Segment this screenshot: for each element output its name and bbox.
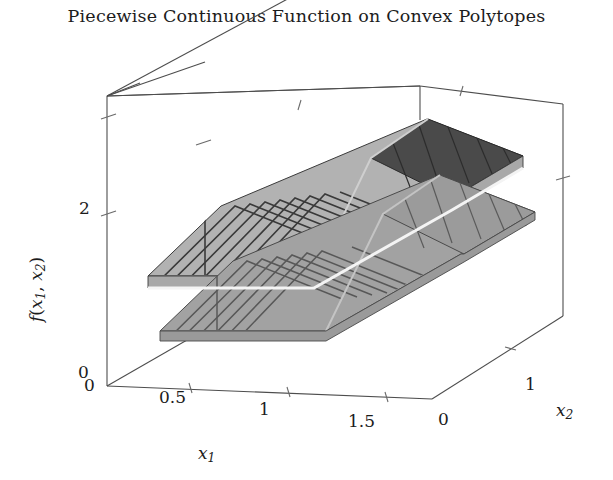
x1-tick-label-15: 1.5 (348, 411, 375, 431)
top-right-rail (420, 86, 563, 104)
x1-tick-1 (287, 387, 290, 397)
z-tick-2 (101, 211, 116, 216)
plot-canvas (0, 0, 613, 480)
surface-plot-figure: Piecewise Continuous Function on Convex … (0, 0, 613, 480)
x1-tick-label-05: 0.5 (159, 387, 186, 407)
top-back-edge-diag (107, 86, 420, 96)
x1-axis-line (107, 386, 432, 399)
x2-tick-label-0: 0 (438, 409, 449, 429)
x1-tick-label-1: 1 (259, 399, 270, 419)
x1-tick-05 (189, 383, 192, 393)
x1-tick-label-0: 0 (84, 375, 95, 395)
upper-left-rail (107, 0, 295, 96)
z-tick-top (101, 114, 116, 119)
upper-rail-tick-a (196, 140, 211, 145)
upper-rail-tick-b (298, 100, 301, 110)
z-axis-label: f(x1, x2) (26, 257, 48, 322)
floor-back-right (107, 83, 140, 96)
top-left-rail (107, 62, 205, 96)
z-tick-label-2: 2 (79, 198, 90, 218)
x2-axis-label: x2 (556, 400, 573, 422)
x2-axis-line (432, 316, 563, 399)
x1-axis-label: x1 (198, 443, 215, 465)
x2-tick-label-1: 1 (525, 374, 536, 394)
